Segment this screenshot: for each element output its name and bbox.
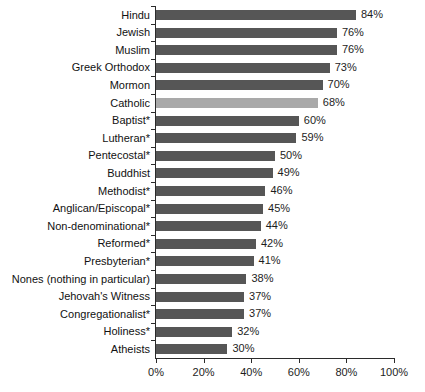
category-label: Congregationalist* — [0, 308, 150, 321]
category-label: Muslim — [0, 44, 150, 57]
bar-value-label: 44% — [266, 218, 288, 232]
bar-row: 45% — [156, 200, 394, 219]
y-axis-tick-mark — [151, 200, 156, 201]
category-label: Mormon — [0, 79, 150, 92]
bar — [156, 28, 337, 38]
bar-row: 46% — [156, 182, 394, 201]
y-axis-tick-mark — [151, 323, 156, 324]
x-axis-tick-label: 100% — [380, 365, 408, 379]
bar — [156, 116, 299, 126]
category-label: Methodist* — [0, 185, 150, 198]
bar — [156, 80, 323, 90]
y-axis-tick-mark — [151, 6, 156, 7]
plot-area: 84%76%76%73%70%68%60%59%50%49%46%45%44%4… — [156, 6, 394, 358]
x-axis-ticks: 0%20%40%60%80%100% — [156, 358, 394, 388]
bar-value-label: 49% — [278, 165, 300, 179]
bar — [156, 204, 263, 214]
bar-row: 49% — [156, 164, 394, 183]
category-label: Pentecostal* — [0, 149, 150, 162]
x-axis-tick-mark — [394, 358, 395, 363]
category-label: Presbyterian* — [0, 255, 150, 268]
bar — [156, 344, 227, 354]
category-label: Non-denominational* — [0, 220, 150, 233]
y-axis-tick-mark — [151, 147, 156, 148]
bar-value-label: 46% — [270, 183, 292, 197]
bar-row: 42% — [156, 235, 394, 254]
category-label: Anglican/Episcopal* — [0, 202, 150, 215]
bar-value-label: 68% — [323, 95, 345, 109]
bar-value-label: 76% — [342, 42, 364, 56]
bar-row: 37% — [156, 288, 394, 307]
bar-row: 60% — [156, 112, 394, 131]
bar-value-label: 41% — [259, 253, 281, 267]
category-label: Baptist* — [0, 114, 150, 127]
bar-row: 50% — [156, 147, 394, 166]
bar — [156, 10, 356, 20]
bar-row: 84% — [156, 6, 394, 25]
bar — [156, 98, 318, 108]
category-label: Jehovah's Witness — [0, 290, 150, 303]
bar-value-label: 30% — [232, 341, 254, 355]
x-axis-tick-label: 0% — [148, 365, 164, 379]
category-label: Holiness* — [0, 325, 150, 338]
category-label: Buddhist — [0, 167, 150, 180]
bar-value-label: 70% — [328, 77, 350, 91]
bar-value-label: 42% — [261, 236, 283, 250]
bar — [156, 239, 256, 249]
x-axis-tick-mark — [251, 358, 252, 363]
y-axis-tick-mark — [151, 217, 156, 218]
bar — [156, 151, 275, 161]
bar-value-label: 45% — [268, 201, 290, 215]
x-axis-tick-mark — [156, 358, 157, 363]
bar-row: 76% — [156, 41, 394, 60]
y-axis-tick-mark — [151, 24, 156, 25]
bar-value-label: 73% — [335, 60, 357, 74]
bar-row: 38% — [156, 270, 394, 289]
bar-value-label: 76% — [342, 25, 364, 39]
y-axis-tick-mark — [151, 112, 156, 113]
bar-row: 30% — [156, 340, 394, 359]
bar-chart: HinduJewishMuslimGreek OrthodoxMormonCat… — [0, 0, 425, 392]
bar — [156, 186, 265, 196]
bar-row: 41% — [156, 252, 394, 271]
bar-row: 37% — [156, 305, 394, 324]
bar-row: 44% — [156, 217, 394, 236]
bar-row: 68% — [156, 94, 394, 113]
x-axis-tick-mark — [299, 358, 300, 363]
x-axis-tick-mark — [346, 358, 347, 363]
y-axis-category-labels: HinduJewishMuslimGreek OrthodoxMormonCat… — [0, 6, 150, 358]
x-axis-tick-label: 60% — [288, 365, 310, 379]
category-label: Hindu — [0, 9, 150, 22]
x-axis-tick-label: 80% — [335, 365, 357, 379]
bar-value-label: 37% — [249, 306, 271, 320]
bar-value-label: 59% — [301, 130, 323, 144]
y-axis-tick-mark — [151, 129, 156, 130]
bar-rows: 84%76%76%73%70%68%60%59%50%49%46%45%44%4… — [156, 6, 394, 358]
y-axis-tick-mark — [151, 252, 156, 253]
y-axis-tick-mark — [151, 270, 156, 271]
category-label: Greek Orthodox — [0, 61, 150, 74]
y-axis-tick-mark — [151, 59, 156, 60]
x-axis-tick-mark — [204, 358, 205, 363]
bar-row: 73% — [156, 59, 394, 78]
bar — [156, 309, 244, 319]
category-label: Reformed* — [0, 237, 150, 250]
y-axis-tick-mark — [151, 76, 156, 77]
y-axis-tick-mark — [151, 94, 156, 95]
y-axis-tick-mark — [151, 288, 156, 289]
bar — [156, 133, 296, 143]
bar — [156, 45, 337, 55]
bar — [156, 256, 254, 266]
bar — [156, 168, 273, 178]
category-label: Lutheran* — [0, 132, 150, 145]
y-axis-tick-mark — [151, 182, 156, 183]
bar-value-label: 50% — [280, 148, 302, 162]
bar — [156, 221, 261, 231]
bar-value-label: 60% — [304, 113, 326, 127]
y-axis-tick-mark — [151, 305, 156, 306]
bar-value-label: 84% — [361, 7, 383, 21]
y-axis-tick-mark — [151, 340, 156, 341]
y-axis-tick-mark — [151, 235, 156, 236]
category-label: Nones (nothing in particular) — [0, 273, 150, 286]
bar — [156, 63, 330, 73]
